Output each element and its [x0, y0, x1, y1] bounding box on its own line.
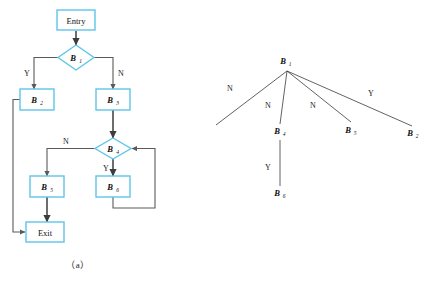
node-b4[interactable]: B 4	[95, 138, 131, 159]
node-entry[interactable]: Entry	[57, 10, 95, 30]
node-b3-label: B	[106, 95, 113, 105]
edge-b1-to-b3	[93, 58, 113, 90]
edge-label-b1-no: N	[118, 69, 124, 78]
tree-edge-label-b5: N	[310, 101, 316, 110]
tree-node-b2-label: B	[406, 128, 413, 138]
edge-b1-to-b2	[34, 58, 59, 90]
node-b2-label: B	[30, 95, 37, 105]
node-b2[interactable]: B 2	[20, 89, 54, 110]
tree-node-b4[interactable]: B 4	[273, 126, 285, 137]
node-b3[interactable]: B 3	[96, 89, 130, 110]
node-b1[interactable]: B 1	[58, 45, 94, 70]
tree-edge-root-to-b5	[287, 71, 351, 122]
tree-edge-label-b2: Y	[368, 89, 374, 98]
tree-node-root[interactable]: B 1	[279, 56, 291, 67]
edge-label-b1-yes: Y	[24, 69, 30, 78]
panel-tree: B 1 B 3 B 4 B 5 B 2	[216, 0, 432, 285]
edge-label-b4-yes: Y	[103, 164, 109, 173]
node-b1-subscript: 1	[79, 58, 82, 64]
edge-label-b4-no: N	[63, 137, 69, 146]
node-b5[interactable]: B 5	[30, 176, 64, 197]
edge-b4-to-b5	[47, 149, 96, 177]
node-b5-label: B	[40, 182, 47, 192]
edge-b2-to-exit	[13, 100, 25, 233]
tree-node-b5-label: B	[344, 125, 351, 135]
tree-node-b4-subscript: 4	[283, 131, 286, 137]
tree-edge-label-b3: N	[227, 84, 233, 93]
tree-node-b5-subscript: 5	[354, 130, 357, 136]
tree-node-b2[interactable]: B 2	[406, 128, 418, 139]
caption-panel-a: （a）	[48, 258, 108, 271]
node-b6-subscript: 6	[116, 187, 119, 193]
node-b5-subscript: 5	[50, 187, 53, 193]
tree-edge-label-b4: N	[265, 101, 271, 110]
tree-svg: B 1 B 3 B 4 B 5 B 2	[216, 0, 432, 250]
node-b2-subscript: 2	[40, 100, 43, 106]
node-b6[interactable]: B 6	[96, 176, 130, 197]
tree-node-b6[interactable]: B 6	[273, 188, 285, 199]
tree-node-b5[interactable]: B 5	[344, 125, 356, 136]
panel-flowchart: Entry B 1 B 2 B 3 B	[0, 0, 216, 285]
tree-node-b4-label: B	[273, 126, 280, 136]
node-entry-label: Entry	[67, 16, 87, 26]
flowchart-svg: Entry B 1 B 2 B 3 B	[0, 0, 216, 250]
tree-node-b2-subscript: 2	[416, 133, 419, 139]
node-b6-label: B	[106, 182, 113, 192]
node-b4-subscript: 4	[116, 149, 119, 155]
tree-edge-root-to-b2	[287, 71, 412, 126]
tree-edge-root-to-b3	[216, 71, 287, 128]
tree-edge-root-to-b4	[280, 71, 287, 124]
node-exit-label: Exit	[38, 228, 53, 238]
tree-node-b6-subscript: 6	[283, 193, 286, 199]
figure-container: Entry B 1 B 2 B 3 B	[0, 0, 432, 285]
node-exit[interactable]: Exit	[26, 222, 64, 242]
node-b1-label: B	[69, 53, 76, 63]
tree-node-b6-label: B	[273, 188, 280, 198]
tree-node-root-label: B	[279, 56, 286, 66]
tree-node-root-subscript: 1	[289, 61, 292, 67]
tree-edge-label-b6: Y	[265, 163, 271, 172]
node-b3-subscript: 3	[115, 100, 119, 106]
node-b4-label: B	[106, 144, 113, 154]
